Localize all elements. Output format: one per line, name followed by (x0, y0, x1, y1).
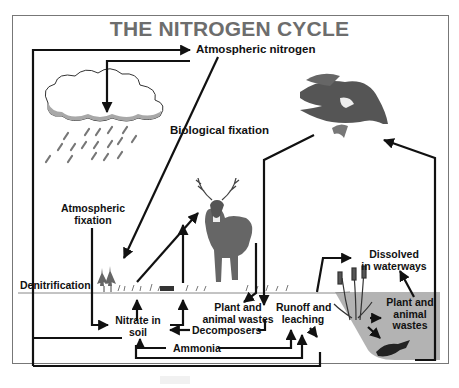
eagle-icon (300, 74, 388, 138)
label-dissolved-waterways: Dissolved in waterways (356, 249, 432, 272)
page-title: THE NITROGEN CYCLE (0, 17, 459, 41)
label-atmospheric-fixation: Atmospheric fixation (56, 203, 130, 226)
label-ammonia: Ammonia (173, 343, 221, 355)
label-plant-animal-wastes: Plant and animal wastes (200, 302, 276, 325)
label-water-wastes: Plant and animal wastes (384, 297, 436, 332)
arrow-runoff-dissolved (317, 258, 351, 292)
cloud-icon (45, 69, 163, 121)
arrow-atmospheric-fixation (92, 228, 108, 325)
rain-icon (46, 127, 136, 162)
label-nitrate-in-soil: Nitrate in soil (110, 315, 166, 338)
arrow-ammonia (140, 339, 166, 348)
flowers-icon (160, 286, 174, 291)
label-decomposers: Decomposers (192, 325, 261, 337)
label-atmospheric-nitrogen: Atmospheric nitrogen (196, 44, 315, 56)
label-biological-fixation: Biological fixation (170, 125, 269, 137)
label-denitrification: Denitrification (20, 280, 91, 292)
arrow-eagle-wastes (264, 135, 314, 305)
trees-icon (97, 266, 116, 292)
label-runoff-leaching: Runoff and leaching (276, 302, 330, 325)
bottom-tab (160, 376, 190, 384)
grass-icon (118, 284, 288, 291)
deer-icon (196, 178, 252, 282)
